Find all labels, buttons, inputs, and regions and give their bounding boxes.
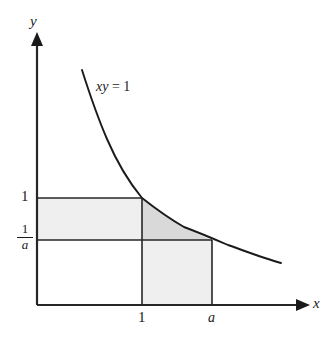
y-axis-arrow-icon (31, 32, 43, 46)
curve-equation-label: xy = 1 (96, 80, 130, 94)
x-axis-arrow-icon (296, 299, 310, 311)
region-lower-rectangle (142, 240, 212, 305)
hyperbola-figure (0, 0, 336, 337)
x-axis-label: x (313, 296, 320, 311)
fraction-denominator: a (17, 238, 33, 253)
y-tick-label-one-over-a: 1 a (17, 222, 33, 253)
x-tick-label-a: a (208, 311, 215, 325)
region-upper-rectangle (37, 198, 142, 240)
curve-equation-variables: xy (96, 79, 108, 94)
x-tick-label-one: 1 (138, 310, 146, 325)
curve-equation-value: = 1 (108, 79, 130, 94)
y-tick-label-one: 1 (21, 189, 29, 204)
y-axis-label: y (30, 14, 37, 29)
fraction-numerator: 1 (17, 222, 33, 236)
